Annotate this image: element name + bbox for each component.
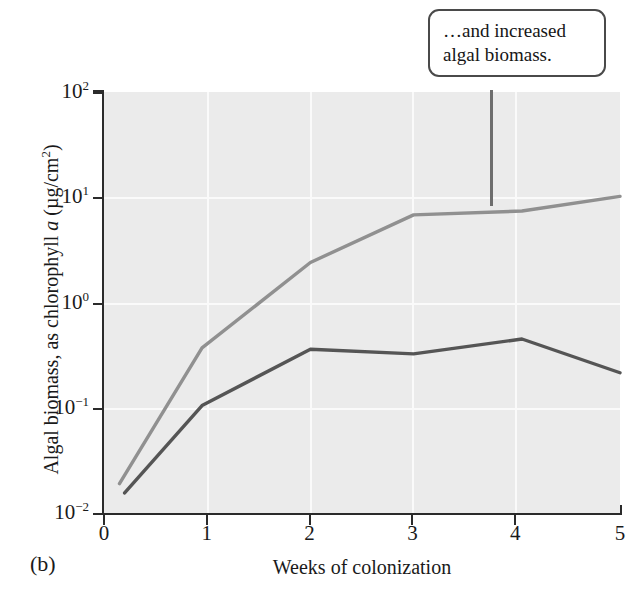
x-axis-title: Weeks of colonization bbox=[104, 556, 620, 579]
y-axis-title: Algal biomass, as chlorophyll a (µg/cm2) bbox=[40, 100, 63, 520]
y-tick-exponent: 2 bbox=[83, 78, 90, 93]
x-axis-right-tick bbox=[620, 505, 622, 515]
callout-line-1: …and increased bbox=[443, 19, 592, 43]
figure-panel-b: 102 101 100 10−1 10−2 0 1 2 3 4 5 Weeks … bbox=[0, 0, 643, 594]
panel-label: (b) bbox=[30, 551, 56, 577]
y-axis-line bbox=[102, 90, 104, 515]
x-tick-label: 3 bbox=[398, 523, 426, 544]
y-tick-mark bbox=[93, 303, 102, 305]
x-tick-label: 0 bbox=[90, 523, 118, 544]
x-tick-label: 1 bbox=[193, 523, 221, 544]
y-tick-exponent: −2 bbox=[75, 499, 89, 514]
y-tick-exponent: 0 bbox=[83, 289, 90, 304]
y-tick-mark bbox=[93, 408, 102, 410]
y-tick-exponent: −1 bbox=[75, 394, 89, 409]
series-upper-curve bbox=[119, 196, 620, 483]
series-lower-curve bbox=[125, 339, 620, 493]
y-axis-title-italic-a: a bbox=[40, 221, 62, 231]
y-axis-title-pre: Algal biomass, as chlorophyll bbox=[40, 231, 62, 475]
y-axis-title-superscript: 2 bbox=[38, 151, 53, 158]
y-tick-exponent: 1 bbox=[83, 183, 90, 198]
y-tick-label: 100 bbox=[62, 292, 90, 313]
y-axis-title-unit-open: (µg/cm bbox=[40, 158, 62, 221]
y-tick-label: 102 bbox=[62, 81, 90, 102]
y-tick-mark bbox=[93, 513, 102, 515]
callout-box: …and increased algal biomass. bbox=[428, 9, 606, 77]
y-tick-mark bbox=[93, 197, 102, 199]
y-axis-title-unit-close: ) bbox=[40, 144, 62, 151]
callout-line-2: algal biomass. bbox=[443, 43, 592, 67]
x-tick-label: 2 bbox=[296, 523, 324, 544]
x-tick-label: 4 bbox=[501, 523, 529, 544]
plot-area bbox=[104, 92, 620, 513]
y-tick-mark bbox=[93, 92, 102, 94]
y-tick-label: 101 bbox=[62, 186, 90, 207]
x-axis-line bbox=[102, 513, 622, 515]
data-lines bbox=[104, 92, 620, 513]
callout-pointer-line bbox=[490, 90, 493, 206]
x-tick-label: 5 bbox=[606, 523, 634, 544]
